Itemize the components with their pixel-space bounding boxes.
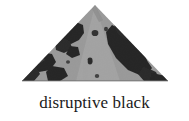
figure-container: disruptive black — [0, 0, 189, 121]
triangle-base-edge — [22, 80, 168, 82]
figure-caption: disruptive black — [0, 88, 189, 121]
halftone-grain-overlay — [22, 5, 168, 81]
disruptive-black-triangle-swatch-icon — [0, 0, 189, 88]
